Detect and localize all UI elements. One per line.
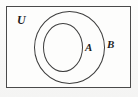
universal-set-label: U: [17, 14, 26, 26]
venn-diagram-figure: U A B: [0, 0, 138, 97]
set-a-circle: [43, 23, 83, 72]
set-b-label: B: [107, 39, 114, 50]
set-a-label: A: [85, 42, 92, 53]
